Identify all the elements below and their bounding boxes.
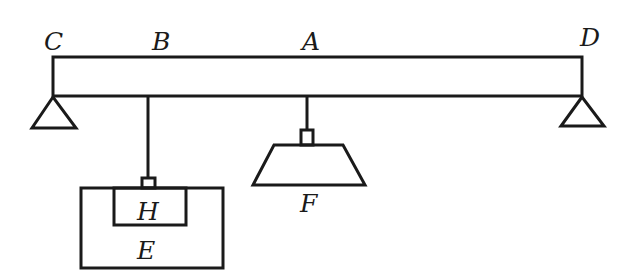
beam-cd: [53, 57, 582, 96]
lever-diagram: C B A D H E F: [0, 0, 635, 279]
label-f: F: [299, 189, 319, 218]
support-d: [561, 97, 604, 126]
weight-f: [253, 145, 365, 185]
support-c: [32, 97, 76, 128]
label-a: A: [300, 27, 320, 56]
label-e: E: [136, 236, 155, 265]
label-b: B: [151, 27, 170, 56]
label-c: C: [44, 27, 63, 56]
hook-f: [301, 130, 313, 145]
label-h: H: [136, 197, 160, 226]
label-d: D: [579, 23, 600, 52]
